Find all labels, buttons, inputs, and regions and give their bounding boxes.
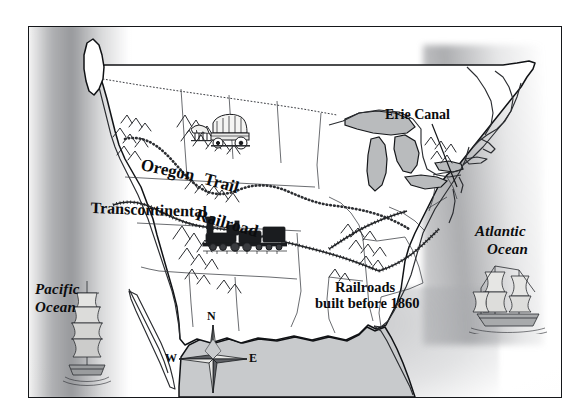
railroads-label-line2: built before 1860 (315, 295, 419, 311)
map-root: N S W E Pacific Ocean Atlantic Ocean Eri… (0, 0, 587, 418)
map-frame: N S W E Pacific Ocean Atlantic Ocean Eri… (28, 26, 562, 398)
atlantic-sailing-ship-illustration (469, 262, 547, 334)
eastern-railroad-network (329, 211, 439, 271)
pacific-ocean-label-line2: Ocean (35, 299, 76, 316)
erie-canal-label: Erie Canal (385, 107, 450, 123)
compass-north-label: N (207, 309, 216, 324)
compass-south-label: S (207, 395, 214, 398)
atlantic-ocean-label-line2: Ocean (487, 241, 528, 258)
compass-west-label: W (165, 351, 177, 366)
atlantic-ocean-label-line1: Atlantic (475, 223, 526, 240)
pacific-ocean-label-line1: Pacific (35, 281, 80, 298)
erie-canal-route (433, 170, 461, 175)
covered-wagon-illustration (189, 109, 251, 153)
compass-rose: N S W E (165, 309, 261, 398)
railroads-label-line1: Railroads (335, 279, 395, 295)
erie-canal-leader-line (432, 124, 457, 187)
compass-east-label: E (249, 351, 257, 366)
